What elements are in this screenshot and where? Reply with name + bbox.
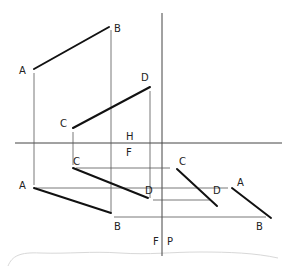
profile-line-ab [232,188,271,218]
label-top-b: B [114,23,121,34]
label-fold-f-top: F [126,147,132,158]
label-top-c: C [60,118,67,129]
top-line-ab [34,27,109,69]
label-fold-f-side: F [153,236,159,247]
page-edge [8,252,278,266]
label-front-a: A [19,180,26,191]
label-front-d: D [145,185,153,196]
label-profile-c: C [179,156,186,167]
front-line-cd [73,168,148,198]
label-top-a: A [19,65,26,76]
label-front-c: C [73,156,80,167]
profile-line-cd [177,169,217,206]
label-profile-b: B [256,221,263,232]
label-fold-h: H [126,131,134,142]
label-profile-d: D [213,185,221,196]
label-fold-p: P [167,236,173,247]
label-front-b: B [114,221,121,232]
label-top-d: D [141,72,149,83]
front-line-ab [34,188,111,213]
projection-diagram: A B C D H F F P C D A B C D A B [0,0,286,266]
label-profile-a: A [237,177,244,188]
top-line-cd [73,87,150,128]
